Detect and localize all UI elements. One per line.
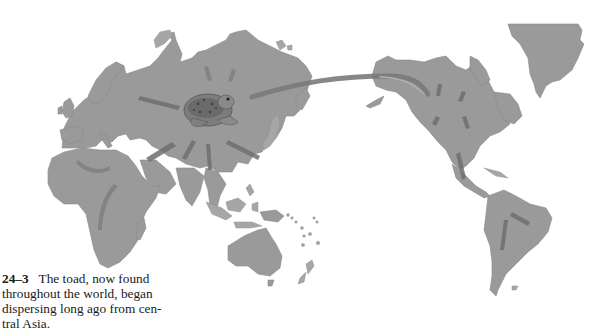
caption-line-4: tral Asia.: [2, 316, 50, 331]
australia-landmass: [228, 228, 282, 286]
south-america-landmass: [484, 190, 552, 296]
new-zealand-landmass: [298, 260, 314, 284]
caption-line-1: The toad, now found: [39, 271, 150, 286]
greenland-landmass: [508, 24, 584, 98]
caption-line-2: throughout the world, began: [2, 286, 153, 301]
figure-caption: 24–3The toad, now found throughout the w…: [2, 271, 172, 331]
figure: 24–3The toad, now found throughout the w…: [0, 0, 613, 335]
figure-number: 24–3: [2, 271, 29, 286]
caption-line-3: dispersing long ago from cen-: [2, 301, 162, 316]
toad-icon: [184, 94, 238, 127]
